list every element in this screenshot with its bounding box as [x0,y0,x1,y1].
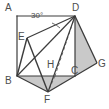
geometry-canvas [0,0,109,109]
vertex-label-b: B [5,76,12,86]
shaded-region-dcg [75,16,97,76]
geometry-figure: A D E H C G B F 30° [0,0,109,109]
vertex-label-g: G [98,59,106,69]
angle-label-30deg: 30° [31,12,43,20]
vertex-label-f: F [44,95,50,105]
vertex-label-h: H [47,60,54,70]
segment-db [17,16,75,76]
vertex-label-c: C [71,66,78,76]
vertex-label-d: D [72,3,79,13]
vertex-label-a: A [5,3,12,13]
vertex-label-e: E [18,32,25,42]
